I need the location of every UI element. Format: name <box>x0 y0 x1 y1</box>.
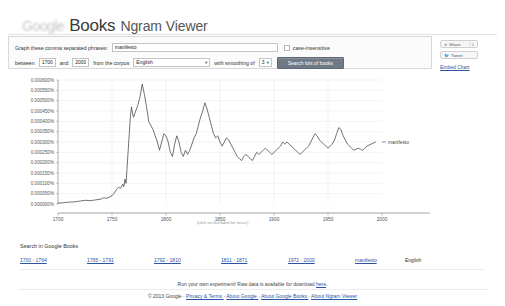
search-in-books-links: 1700 - 17641765 - 17911792 - 18101811 - … <box>20 257 490 263</box>
y-tick-label: 0.000300% <box>31 140 54 145</box>
books-wordmark[interactable]: Books <box>69 16 115 36</box>
share-label: Share <box>449 42 461 47</box>
site-header: Google Books Ngram Viewer <box>0 6 505 32</box>
case-insensitive-group[interactable]: case-insensitive <box>284 45 330 51</box>
tweet-label: Tweet <box>451 53 463 58</box>
query-panel: Graph these comma separated phrases: cas… <box>8 36 432 69</box>
phrases-label: Graph these comma separated phrases: <box>15 45 108 51</box>
footer-link[interactable]: About Google Books <box>261 293 308 299</box>
between-label: between <box>15 60 35 66</box>
case-insensitive-checkbox[interactable] <box>284 45 290 51</box>
y-tick-label: 0.000150% <box>31 171 54 176</box>
books-range-link[interactable]: 1972 - 2000 <box>288 257 355 263</box>
y-tick-label: 0.000350% <box>31 129 54 134</box>
options-row: between and from the corpus English ▼ wi… <box>15 56 344 69</box>
y-tick-label: 0.000500% <box>31 98 54 103</box>
y-tick-label: 0.000250% <box>31 150 54 155</box>
phrases-input[interactable] <box>112 43 278 52</box>
corpus-select-value: English <box>136 58 152 67</box>
books-range-link[interactable]: 1765 - 1791 <box>87 257 154 263</box>
series-legend-label[interactable]: manifesto <box>388 140 409 145</box>
chevron-down-icon: ▼ <box>266 59 270 66</box>
corpus-label: from the corpus <box>93 60 129 66</box>
share-button[interactable]: ➤ Share 0 <box>440 40 478 48</box>
year-start-input[interactable] <box>39 58 56 67</box>
y-tick-label: 0.000200% <box>31 160 54 165</box>
twitter-bird-icon: 🐦 <box>444 53 449 58</box>
search-in-books-title: Search in Google Books <box>20 243 490 249</box>
section-divider <box>20 269 485 270</box>
y-tick-label: 0.000550% <box>31 88 54 93</box>
share-rail: ➤ Share 0 🐦 Tweet Embed Chart <box>440 40 502 70</box>
books-corpus-label: English <box>405 257 421 263</box>
footer-experiment: Run your own experiment! Raw data is ava… <box>0 281 505 287</box>
y-tick-label: 0.000400% <box>31 119 54 124</box>
search-in-books-section: Search in Google Books 1700 - 17641765 -… <box>20 243 490 263</box>
y-tick-label: 0.000000% <box>31 202 54 207</box>
smoothing-select-value: 3 <box>262 58 265 67</box>
copyright-text: © 2013 Google <box>148 293 183 299</box>
books-range-link[interactable]: 1811 - 1871 <box>221 257 288 263</box>
footer-experiment-text: Run your own experiment! Raw data is ava… <box>178 281 316 287</box>
google-logo[interactable]: Google <box>22 18 64 34</box>
footer-divider <box>18 289 488 290</box>
raw-data-link[interactable]: here <box>316 281 326 287</box>
y-tick-label: 0.000450% <box>31 109 54 114</box>
phrases-row: Graph these comma separated phrases: cas… <box>15 41 330 54</box>
footer-legal: © 2013 Google - Privacy & Terms - About … <box>0 293 505 299</box>
logo-title-group: Google Books Ngram Viewer <box>22 16 208 36</box>
footer-link[interactable]: Privacy & Terms <box>186 293 223 299</box>
footer-link[interactable]: About Google <box>226 293 258 299</box>
search-button[interactable]: Search lots of books <box>277 57 344 69</box>
ngram-viewer-page: Google Books Ngram Viewer Graph these co… <box>0 0 505 306</box>
chart-canvas[interactable]: 0.000600%0.000550%0.000500%0.000450%0.00… <box>10 74 435 222</box>
share-count: 0 <box>469 42 474 47</box>
books-range-link[interactable]: 1792 - 1810 <box>154 257 221 263</box>
chevron-down-icon: ▼ <box>204 59 208 66</box>
y-tick-label: 0.000100% <box>31 181 54 186</box>
smoothing-select[interactable]: 3 ▼ <box>259 58 272 67</box>
share-icon: ➤ <box>444 42 447 47</box>
smoothing-label: with smoothing of <box>214 60 254 66</box>
header-divider <box>8 34 497 35</box>
footer-link[interactable]: About Ngram Viewer <box>311 293 357 299</box>
case-insensitive-label: case-insensitive <box>293 45 330 51</box>
corpus-select[interactable]: English ▼ <box>133 58 210 67</box>
year-end-input[interactable] <box>72 58 89 67</box>
books-phrase-link[interactable]: manifesto <box>355 257 405 263</box>
y-tick-label: 0.000050% <box>31 191 54 196</box>
ngram-chart[interactable]: 0.000600%0.000550%0.000500%0.000450%0.00… <box>10 74 435 226</box>
embed-chart-link[interactable]: Embed Chart <box>440 64 502 70</box>
books-range-link[interactable]: 1700 - 1764 <box>20 257 87 263</box>
y-tick-label: 0.000600% <box>31 78 54 83</box>
chart-caption: (click on line/label for focus) <box>10 220 435 225</box>
footer-experiment-tail: . <box>326 281 327 287</box>
and-label: and <box>60 60 69 66</box>
tweet-button[interactable]: 🐦 Tweet <box>440 51 478 59</box>
page-title: Ngram Viewer <box>120 18 207 34</box>
